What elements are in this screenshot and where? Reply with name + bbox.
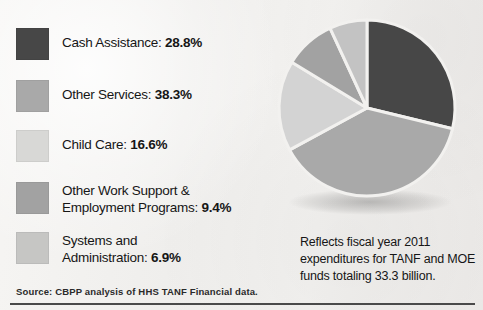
- pie-slices-group: [279, 20, 455, 196]
- legend-swatch-child-care: [16, 130, 49, 162]
- legend-label-systems-administration: Systems and Administration: 6.9%: [62, 232, 181, 266]
- legend-item-child-care[interactable]: Child Care: 16.6%: [16, 130, 167, 162]
- legend-item-other-services[interactable]: Other Services: 38.3%: [16, 80, 192, 112]
- legend-swatch-other-work-support: [16, 182, 49, 214]
- legend-label-child-care: Child Care: 16.6%: [62, 130, 167, 153]
- source-note: Source: CBPP analysis of HHS TANF Financ…: [16, 286, 258, 297]
- pie-chart-figure: Cash Assistance: 28.8% Other Services: 3…: [0, 0, 483, 310]
- pie-caption: Reflects fiscal year 2011 expenditures f…: [300, 234, 480, 285]
- pie-chart-svg: [262, 6, 472, 222]
- legend-label-cash-assistance: Cash Assistance: 28.8%: [62, 28, 202, 51]
- bottom-divider: [10, 303, 475, 305]
- legend-item-systems-administration[interactable]: Systems and Administration: 6.9%: [16, 232, 181, 266]
- legend-swatch-systems-administration: [16, 232, 49, 264]
- pie-chart: [262, 6, 472, 222]
- legend-swatch-other-services: [16, 80, 49, 112]
- legend-label-other-work-support: Other Work Support & Employment Programs…: [62, 182, 231, 216]
- legend-item-other-work-support[interactable]: Other Work Support & Employment Programs…: [16, 182, 231, 216]
- chart-legend: Cash Assistance: 28.8% Other Services: 3…: [0, 0, 258, 275]
- legend-item-cash-assistance[interactable]: Cash Assistance: 28.8%: [16, 28, 202, 60]
- legend-swatch-cash-assistance: [16, 28, 49, 60]
- legend-label-other-services: Other Services: 38.3%: [62, 80, 192, 103]
